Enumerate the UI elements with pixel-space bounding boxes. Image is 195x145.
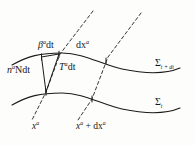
figure-canvas: βadt dxa naNdt Tadt Σt + dt Σt xa xa + d… bbox=[0, 0, 195, 145]
label-shift-suffix: dt bbox=[46, 39, 54, 50]
label-dx-base: dx bbox=[76, 39, 86, 50]
vector-normal-na-n-dt bbox=[42, 57, 47, 92]
label-coord-left: xa bbox=[32, 122, 39, 132]
label-coord-left-superscript: a bbox=[36, 120, 39, 126]
worldline-right-dashed bbox=[78, 13, 141, 120]
label-normal-vector: naNdt bbox=[7, 65, 30, 75]
label-coordinate-displacement: dxa bbox=[76, 40, 89, 50]
label-coord-right-base-second: dx bbox=[93, 121, 103, 131]
label-tangent-suffix: dt bbox=[68, 61, 76, 72]
label-normal-suffix: Ndt bbox=[15, 64, 30, 75]
label-dx-superscript: a bbox=[86, 38, 89, 45]
label-tangent-vector: Tadt bbox=[59, 62, 75, 72]
vector-tangent-ta-dt bbox=[46, 54, 59, 92]
label-sigma-upper: Σt + dt bbox=[155, 58, 174, 68]
label-sigma-upper-subscript: t + dt bbox=[161, 64, 174, 70]
label-coord-right-sup-second: a bbox=[103, 120, 106, 126]
label-coord-right: xa + dxa bbox=[76, 122, 106, 132]
label-sigma-lower-subscript: t bbox=[161, 103, 163, 109]
label-shift-vector: βadt bbox=[38, 40, 54, 50]
label-sigma-lower: Σt bbox=[155, 97, 162, 107]
label-coord-right-operator: + bbox=[83, 121, 93, 131]
